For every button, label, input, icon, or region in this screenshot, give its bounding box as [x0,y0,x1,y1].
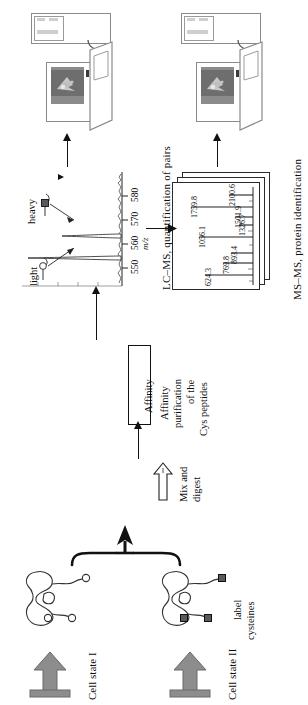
annotation-light-svg [18,248,76,290]
monitor-side-lcms [238,40,266,132]
monitor-screen-lcms [201,67,234,104]
label-cysteines-line-2: cysteines [245,602,256,641]
msms-spectra-stack: 2100.6 1759.8 1501.9 1326.7 1056.1 893.4… [170,172,270,290]
annotation-heavy-label: heavy [26,199,37,224]
arrow-head-affinity-to-lcms [92,286,100,294]
annotation-heavy: heavy [18,182,76,230]
cell-state-2-arrow [162,650,218,698]
label-msms-identification: MS–MS, protein identification [291,159,303,300]
msms-peak-label-1326: 1326.7 [238,214,247,236]
affinity-caption-line-1: Affinity [159,386,170,420]
msms-sheet-front-svg [173,183,259,289]
mix-digest-arrow-icon [152,462,174,502]
arrow-head-to-msms-computer [63,133,71,141]
label-cysteines-line-1: label [232,600,243,620]
keyboard-key [37,18,45,21]
arrow-head-to-msms-stack [168,224,178,234]
arrow-head-to-lcms-computer [213,133,221,141]
annotation-light-label: light [28,267,39,286]
monitor-screen-msms [51,67,84,104]
gel-image-msms [51,67,84,104]
msms-peak-label-2100: 2100.6 [228,184,237,206]
arrow-affinity-to-lcms [96,292,97,340]
msms-peak-label-1759: 1759.8 [190,196,199,218]
gel-image-lcms [201,67,234,104]
cell-state-1-label: Cell state I [86,652,98,700]
protein-cell-state-1 [22,568,94,632]
lcms-tick-580: 580 [130,188,140,202]
affinity-box-label: Affinity [143,379,154,413]
cell-state-2-label: Cell state II [226,649,238,700]
msms-peak-label-769: 769.8 [222,256,231,274]
msms-peak-label-893: 893.4 [230,246,239,264]
keyboard-key [187,18,195,21]
msms-peak-label-624: 624.3 [204,268,213,286]
msms-sheet-front [172,182,260,290]
cell-state-1-arrow [22,650,78,698]
mix-digest-line-2: digest [191,477,202,502]
lcms-tick-550: 550 [130,260,140,274]
keyboard-key [187,30,208,34]
mix-digest-line-1: Mix and [178,467,189,502]
affinity-caption-line-2: purification [172,379,183,428]
lcms-tick-570: 570 [130,212,140,226]
protein-cell-state-2 [158,568,230,632]
merge-brace-and-arrow [60,525,188,570]
lcms-axis-label-mz: m/z [140,237,150,250]
keyboard-key [49,18,58,21]
arrow-head-digest-to-affinity [134,421,142,429]
figure-canvas: LC–MS, quantification of pairs MS–MS, pr… [0,0,308,705]
arrow-digest-to-affinity [138,427,139,459]
msms-peak-label-1056: 1056.1 [198,226,207,248]
monitor-side-msms [88,40,116,132]
keyboard-key [37,30,58,34]
arrow-to-msms-stack [146,228,170,229]
arrow-to-lcms-computer [217,140,218,167]
arrow-to-msms-computer [67,140,68,167]
affinity-caption-line-4: Cys peptides [198,382,209,436]
affinity-caption-line-3: of the [185,380,196,404]
lcms-tick-560: 560 [130,236,140,250]
annotation-light: light [18,248,76,294]
keyboard-key [199,18,208,21]
